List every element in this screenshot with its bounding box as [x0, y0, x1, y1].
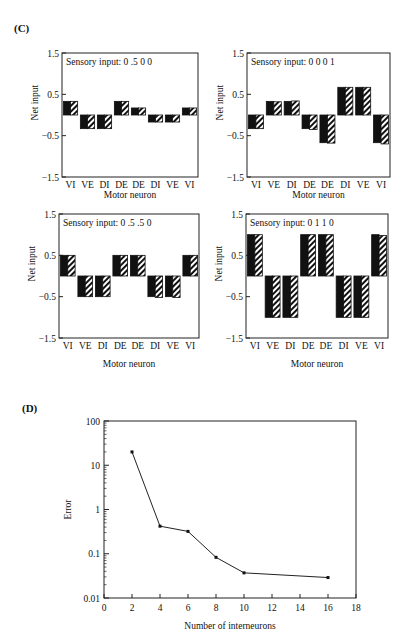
x-category-label: DI: [340, 180, 350, 190]
x-category-label: VI: [251, 180, 261, 190]
x-category-label: VI: [63, 341, 73, 351]
bar-target: [354, 276, 361, 317]
data-point-marker: [187, 530, 190, 533]
x-category-label: VE: [81, 180, 94, 190]
y-tick-label: 0.1: [88, 549, 100, 559]
x-tick-label: 6: [186, 603, 191, 613]
data-point-marker: [159, 525, 162, 528]
chart-c1: 1.50.5−0.5−1.5Sensory input: 0 .5 0 0VIV…: [30, 49, 198, 201]
bar-target: [148, 115, 155, 122]
x-category-label: VI: [184, 180, 194, 190]
plot-frame: [104, 421, 356, 598]
bar-network: [85, 276, 92, 297]
bar-target: [338, 87, 346, 115]
bar-target: [318, 235, 325, 276]
chart-c3: 1.50.5−0.5−1.5Sensory input: 0 .5 .5 0VI…: [27, 210, 199, 370]
bar-network: [308, 235, 315, 276]
y-tick-label: 0.01: [83, 594, 100, 604]
bar-network: [326, 235, 333, 276]
bar-target: [284, 101, 292, 115]
bar-target: [63, 101, 70, 115]
bar-network: [88, 115, 95, 129]
x-tick-label: 2: [130, 603, 135, 613]
data-point-marker: [215, 556, 218, 559]
bar-network: [173, 115, 180, 122]
y-axis-label: Net input: [30, 84, 40, 120]
x-category-label: DI: [339, 341, 349, 351]
data-point-marker: [243, 571, 246, 574]
bar-network: [363, 87, 371, 115]
bar-network: [379, 235, 386, 276]
bar-network: [173, 276, 180, 297]
x-category-label: VE: [357, 180, 370, 190]
bar-target: [148, 276, 155, 297]
error-line: [132, 452, 328, 578]
bar-network: [71, 101, 78, 115]
bar-network: [190, 108, 197, 115]
bar-network: [345, 87, 353, 115]
bar-target: [131, 108, 138, 115]
bar-target: [266, 101, 274, 115]
bar-target: [265, 276, 272, 317]
y-tick-label: −1.5: [227, 173, 244, 183]
x-axis-label: Motor neuron: [104, 190, 157, 200]
bar-target: [165, 115, 172, 122]
x-axis-label: Motor neuron: [291, 359, 344, 369]
x-category-label: VI: [250, 341, 260, 351]
y-tick-label: 0.5: [232, 90, 244, 100]
x-tick-label: 0: [102, 603, 107, 613]
y-tick-label: 100: [86, 417, 101, 427]
y-tick-label: −0.5: [42, 131, 59, 141]
bar-network: [190, 255, 197, 276]
bar-target: [248, 115, 256, 129]
bar-target: [182, 108, 189, 115]
x-category-label: DE: [115, 180, 128, 190]
bar-network: [290, 276, 297, 317]
sensory-input-label: Sensory input: 0 .5 0 0: [66, 57, 152, 67]
x-category-label: VE: [355, 341, 368, 351]
y-tick-label: −0.5: [227, 131, 244, 141]
x-axis-label: Motor neuron: [103, 359, 156, 369]
bar-network: [120, 255, 127, 276]
x-category-label: DI: [98, 341, 108, 351]
y-tick-label: −0.5: [226, 292, 243, 302]
y-tick-label: 1.5: [44, 210, 56, 220]
x-axis-label: Motor neuron: [292, 190, 345, 200]
bar-network: [139, 108, 146, 115]
bar-target: [336, 276, 343, 317]
bar-network: [103, 276, 110, 297]
bar-target: [183, 255, 190, 276]
x-tick-label: 10: [239, 603, 249, 613]
bar-target: [114, 101, 121, 115]
y-axis-label: Error: [63, 499, 73, 520]
y-axis-label: Net input: [214, 245, 224, 281]
sensory-input-label: Sensory input: 0 .5 .5 0: [63, 218, 152, 228]
bar-network: [381, 115, 389, 144]
x-category-label: VE: [166, 341, 179, 351]
x-tick-label: 14: [295, 603, 305, 613]
y-tick-label: 10: [91, 461, 101, 471]
x-tick-label: 4: [158, 603, 163, 613]
x-axis-label: Number of interneurons: [184, 621, 276, 631]
bar-target: [130, 255, 137, 276]
y-tick-label: 1: [95, 505, 100, 515]
x-category-label: DI: [150, 180, 160, 190]
x-category-label: DE: [131, 341, 144, 351]
bar-target: [283, 276, 290, 317]
bar-target: [97, 115, 104, 129]
bar-network: [310, 115, 318, 129]
chart-c2: 1.50.5−0.5−1.5Sensory input: 0 0 0 1VIVE…: [215, 49, 390, 201]
y-axis-label: Net input: [215, 84, 225, 120]
bar-target: [356, 87, 364, 115]
y-tick-label: −1.5: [42, 173, 59, 183]
figure-canvas: 1.50.5−0.5−1.5Sensory input: 0 .5 0 0VIV…: [0, 0, 404, 632]
bar-target: [165, 276, 172, 297]
x-category-label: DE: [303, 180, 316, 190]
bar-target: [374, 115, 382, 143]
bar-network: [122, 101, 129, 115]
bar-target: [60, 255, 67, 276]
bar-network: [105, 115, 112, 129]
bar-network: [156, 115, 163, 122]
bar-network: [155, 276, 162, 297]
y-tick-label: −1.5: [39, 334, 56, 344]
